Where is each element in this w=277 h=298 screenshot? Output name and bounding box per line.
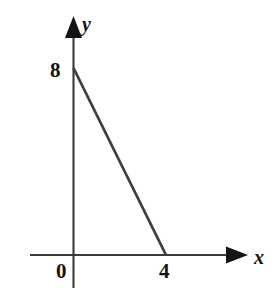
y-axis-label: y	[82, 14, 91, 34]
x-axis-arrowhead-icon	[226, 247, 248, 264]
line-segment-series	[74, 68, 167, 255]
x-axis-label: x	[254, 247, 264, 267]
graph-figure: 8 0 4 y x	[0, 0, 277, 298]
x-intercept-label: 4	[159, 261, 170, 282]
origin-label: 0	[56, 261, 67, 282]
y-intercept-label: 8	[50, 60, 61, 81]
y-axis-arrowhead-icon	[65, 16, 82, 38]
coordinate-plane-svg	[0, 0, 277, 298]
